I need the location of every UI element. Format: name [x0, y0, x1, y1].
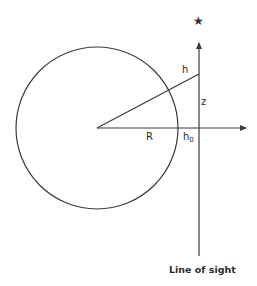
label-h: h [182, 65, 188, 75]
radius-to-height-line [97, 74, 199, 128]
label-R: R [146, 132, 153, 142]
label-z: z [201, 97, 206, 107]
star-icon: ★ [193, 15, 204, 27]
label-h0: h0 [183, 132, 194, 144]
earth-geometry-diagram [0, 0, 257, 286]
label-h0-subscript: 0 [189, 136, 193, 144]
line-of-sight-caption: Line of sight [169, 265, 236, 275]
